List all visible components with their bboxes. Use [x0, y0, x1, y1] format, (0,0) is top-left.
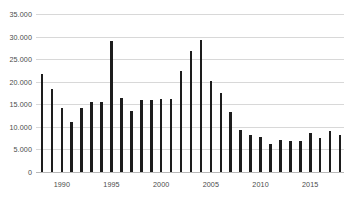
bar-chart: 35.00030.00025.00020.00015.00010.0005.00… [0, 0, 346, 201]
bar-1996 [120, 98, 123, 172]
bar-2012 [279, 140, 282, 173]
bar-2010 [259, 137, 262, 172]
bar-2006 [220, 93, 223, 172]
bar-2008 [239, 130, 242, 172]
bar-2001 [170, 99, 173, 172]
bar-2013 [289, 141, 292, 172]
bar-1992 [80, 108, 83, 172]
plot-area [36, 14, 344, 172]
y-tick-label-20000: 20.000 [9, 77, 32, 86]
bar-1994 [100, 102, 103, 172]
y-tick-label-0: 0 [28, 168, 32, 177]
bar-2016 [319, 138, 322, 172]
y-tick-label-35000: 35.000 [9, 10, 32, 19]
bar-1998 [140, 100, 143, 172]
x-tick-label-2005: 2005 [203, 180, 219, 189]
x-tick-label-2000: 2000 [153, 180, 169, 189]
bar-2003 [190, 51, 193, 172]
x-tick-label-1995: 1995 [103, 180, 119, 189]
x-tick-label-2015: 2015 [302, 180, 318, 189]
gridline-0 [36, 172, 344, 173]
bar-2018 [339, 135, 342, 172]
bar-2004 [200, 40, 203, 172]
y-tick-label-10000: 10.000 [9, 122, 32, 131]
bar-2002 [180, 71, 183, 172]
bar-2009 [249, 135, 252, 172]
bar-2005 [210, 81, 213, 172]
bar-2011 [269, 144, 272, 172]
x-tick-label-1990: 1990 [54, 180, 70, 189]
y-tick-label-15000: 15.000 [9, 100, 32, 109]
bar-1990 [61, 108, 64, 172]
bar-1993 [90, 102, 93, 172]
bar-2000 [160, 99, 163, 172]
bar-1988 [41, 74, 44, 172]
bar-2015 [309, 133, 312, 172]
bar-1989 [51, 89, 54, 172]
x-tick-label-2010: 2010 [252, 180, 268, 189]
bar-1991 [70, 122, 73, 172]
bar-2007 [229, 112, 232, 172]
y-axis-labels: 35.00030.00025.00020.00015.00010.0005.00… [0, 14, 32, 172]
y-tick-label-25000: 25.000 [9, 55, 32, 64]
x-axis-labels: 199019952000200520102015 [36, 174, 344, 196]
bar-2017 [329, 131, 332, 172]
y-tick-label-30000: 30.000 [9, 32, 32, 41]
bar-2014 [299, 141, 302, 172]
bar-1999 [150, 100, 153, 172]
bar-1997 [130, 111, 133, 172]
y-tick-label-5000: 5.000 [14, 145, 33, 154]
bar-1995 [110, 41, 113, 172]
bar-series [36, 14, 344, 172]
